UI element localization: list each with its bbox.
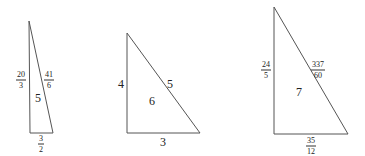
t1-hypotenuse-label: 41 6 [44, 71, 54, 90]
t3-vertical-side-label: 24 5 [261, 61, 271, 80]
t2-area-label: 6 [149, 95, 155, 107]
triangle-2 [127, 33, 200, 133]
t2-base-label: 3 [160, 136, 166, 148]
t2-hypotenuse-label: 5 [167, 78, 173, 90]
t1-base-label: 3 2 [38, 135, 44, 154]
t3-base-label: 35 12 [306, 137, 316, 156]
t2-vertical-side-label: 4 [118, 78, 124, 90]
t1-vertical-side-label: 20 3 [16, 71, 26, 90]
t1-area-label: 5 [35, 92, 41, 104]
t3-area-label: 7 [296, 86, 302, 98]
t3-hypotenuse-label: 337 60 [311, 61, 325, 80]
